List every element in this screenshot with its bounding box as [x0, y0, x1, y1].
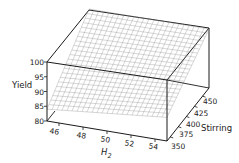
z-tick-90: 90 [34, 88, 44, 97]
y-tick-425: 425 [194, 109, 209, 118]
x-tick-50: 50 [100, 134, 111, 144]
mesh-line-y [89, 9, 209, 29]
z-tick-80: 80 [34, 117, 44, 126]
surface-plot-3d: 100 95 90 85 80 Yield 46 48 50 52 54 H2 … [0, 0, 239, 163]
x-axis-title-sub: 2 [107, 152, 111, 160]
mesh-line-y [76, 41, 196, 57]
mesh-line-y [55, 91, 175, 101]
y-tick-450: 450 [203, 97, 218, 106]
y-tick-350: 350 [171, 142, 186, 151]
mesh-line-y [87, 14, 207, 33]
mesh-line-y [81, 27, 201, 45]
mesh-line-y [74, 45, 194, 61]
mesh-line-y [83, 23, 203, 41]
z-axis-yield: 100 95 90 85 80 Yield [11, 58, 44, 126]
z-tick-100: 100 [30, 58, 45, 67]
x-tick-48: 48 [76, 130, 87, 140]
mesh-line-y [78, 36, 198, 53]
z-tick-95: 95 [34, 73, 44, 82]
x-tick-54: 54 [148, 141, 159, 151]
mesh-line-y [51, 100, 171, 109]
x-tick-46: 46 [49, 126, 60, 136]
y-tick-mark [194, 106, 197, 107]
x-axis-title: H2 [101, 147, 112, 160]
mesh-line-y [47, 109, 167, 117]
y-tick-mark [186, 117, 189, 118]
mesh-line-y [53, 96, 173, 106]
mesh-line-y [58, 82, 178, 93]
z-tick-85: 85 [34, 102, 44, 111]
z-axis-title: Yield [11, 80, 32, 90]
mesh-line-y [85, 18, 205, 37]
y-tick-400: 400 [186, 120, 201, 129]
y-tick-mark [178, 127, 181, 128]
x-axis-h2: 46 48 50 52 54 H2 [49, 126, 159, 160]
y-tick-mark [170, 137, 173, 138]
mesh-line-y [57, 86, 177, 97]
response-surface-mesh [47, 9, 209, 117]
y-tick-375: 375 [179, 130, 194, 139]
y-axis-title: Stirring [201, 123, 232, 133]
mesh-line-y [49, 105, 169, 114]
x-tick-52: 52 [124, 138, 135, 148]
mesh-line-y [79, 32, 199, 49]
